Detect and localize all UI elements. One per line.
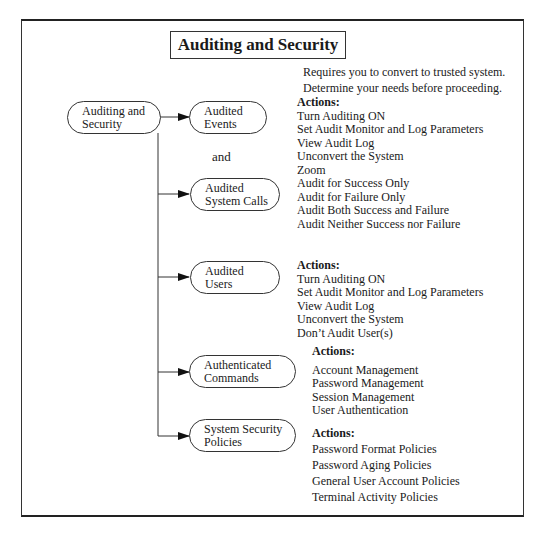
actions-block-policies: Actions: Password Format Policies Passwo… bbox=[312, 425, 460, 505]
action-item: Unconvert the System bbox=[297, 150, 483, 164]
action-item: Password Format Policies bbox=[312, 441, 460, 457]
node-authenticated-commands: Authenticated Commands bbox=[189, 355, 296, 388]
actions-heading: Actions: bbox=[297, 259, 483, 273]
action-item: Password Management bbox=[312, 377, 424, 391]
action-item: Terminal Activity Policies bbox=[312, 489, 460, 505]
node-label: Users bbox=[205, 278, 279, 291]
actions-block-events: Actions: Turn Auditing ON Set Audit Moni… bbox=[297, 96, 483, 231]
action-item: Audit Both Success and Failure bbox=[297, 204, 483, 218]
actions-heading: Actions: bbox=[297, 96, 483, 110]
node-root-auditing-security: Auditing and Security bbox=[67, 101, 161, 134]
action-item: General User Account Policies bbox=[312, 473, 460, 489]
actions-heading: Actions: bbox=[312, 345, 424, 359]
node-audited-events: Audited Events bbox=[189, 101, 267, 134]
actions-block-users: Actions: Turn Auditing ON Set Audit Moni… bbox=[297, 259, 483, 340]
action-item: Audit for Success Only bbox=[297, 177, 483, 191]
node-label: Policies bbox=[204, 436, 295, 449]
action-item: Session Management bbox=[312, 391, 424, 405]
action-item: Zoom bbox=[297, 164, 483, 178]
node-system-security-policies: System Security Policies bbox=[189, 419, 296, 452]
action-item: View Audit Log bbox=[297, 137, 483, 151]
action-item: Unconvert the System bbox=[297, 313, 483, 327]
action-item: View Audit Log bbox=[297, 300, 483, 314]
node-label: Commands bbox=[204, 372, 295, 385]
action-item: Account Management bbox=[312, 364, 424, 378]
action-item: Password Aging Policies bbox=[312, 457, 460, 473]
actions-block-commands: Actions: Account Management Password Man… bbox=[312, 345, 424, 418]
action-item: Don’t Audit User(s) bbox=[297, 327, 483, 341]
action-item: Audit for Failure Only bbox=[297, 191, 483, 205]
action-item: Set Audit Monitor and Log Parameters bbox=[297, 286, 483, 300]
node-label: Events bbox=[204, 118, 266, 131]
node-audited-system-calls: Audited System Calls bbox=[190, 178, 280, 211]
node-audited-users: Audited Users bbox=[190, 261, 280, 294]
action-item: Turn Auditing ON bbox=[297, 273, 483, 287]
action-item: Audit Neither Success nor Failure bbox=[297, 218, 483, 232]
action-item: Set Audit Monitor and Log Parameters bbox=[297, 123, 483, 137]
actions-heading: Actions: bbox=[312, 425, 460, 441]
action-item: User Authentication bbox=[312, 404, 424, 418]
node-label: System Calls bbox=[205, 195, 279, 208]
action-item: Turn Auditing ON bbox=[297, 110, 483, 124]
and-connector-label: and bbox=[212, 149, 231, 165]
node-label: Security bbox=[82, 118, 160, 131]
